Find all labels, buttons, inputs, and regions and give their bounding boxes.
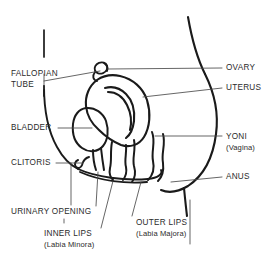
label-yoni-line1: YONI [226, 131, 255, 142]
label-inner-lips: INNER LIPS (Labia Minora) [44, 228, 94, 250]
clitoris-shape [75, 157, 89, 168]
anatomy-diagram-page: FALLOPIAN TUBE BLADDER CLITORIS URINARY … [0, 0, 277, 267]
label-uterus-line1: UTERUS [226, 83, 261, 94]
uterus-group [86, 75, 150, 146]
label-bladder: BLADDER [11, 123, 51, 134]
bladder-outline [73, 108, 108, 151]
leader-outer-lips [132, 182, 141, 216]
label-clitoris-line1: CLITORIS [11, 158, 51, 169]
body-outline-group [161, 17, 217, 216]
label-outer-lips-line1: OUTER LIPS [136, 217, 187, 228]
uterus-cavity-inner [108, 92, 131, 130]
label-fallopian-tube-line2: TUBE [11, 79, 58, 90]
clitoris-group [75, 157, 89, 168]
label-uterus: UTERUS [226, 83, 261, 94]
label-outer-lips: OUTER LIPS (Labia Majora) [136, 217, 187, 239]
uterus-outer-outline [86, 75, 150, 146]
label-anus: ANUS [226, 172, 250, 183]
leader-ovary [108, 68, 222, 69]
vaginal-wall-right [123, 145, 126, 180]
vaginal-canal-group [110, 132, 164, 182]
label-urinary-opening-line1: URINARY OPENING [11, 207, 91, 218]
label-clitoris: CLITORIS [11, 158, 51, 169]
label-ovary-line1: OVARY [226, 63, 255, 74]
label-yoni-line2: (Vagina) [226, 142, 255, 153]
label-urinary-opening: URINARY OPENING [11, 207, 91, 218]
label-outer-lips-line2: (Labia Majora) [136, 228, 187, 239]
leader-uterus [143, 88, 222, 97]
label-yoni: YONI (Vagina) [226, 131, 255, 153]
leg-outline [184, 188, 187, 216]
leader-inner-lips [101, 181, 113, 228]
label-fallopian-tube: FALLOPIAN TUBE [11, 68, 58, 90]
label-inner-lips-line1: INNER LIPS [44, 228, 94, 239]
urethra-line-left [93, 150, 96, 170]
back-outline-upper [188, 17, 205, 74]
label-anus-line1: ANUS [226, 172, 250, 183]
label-ovary: OVARY [226, 63, 255, 74]
label-inner-lips-line2: (Labia Minora) [44, 239, 94, 250]
label-bladder-line1: BLADDER [11, 123, 51, 134]
label-fallopian-tube-line1: FALLOPIAN [11, 68, 58, 79]
urethra-line-right [101, 148, 104, 170]
labia-majora-fold-outer [148, 132, 154, 180]
vaginal-wall-left [110, 142, 113, 180]
